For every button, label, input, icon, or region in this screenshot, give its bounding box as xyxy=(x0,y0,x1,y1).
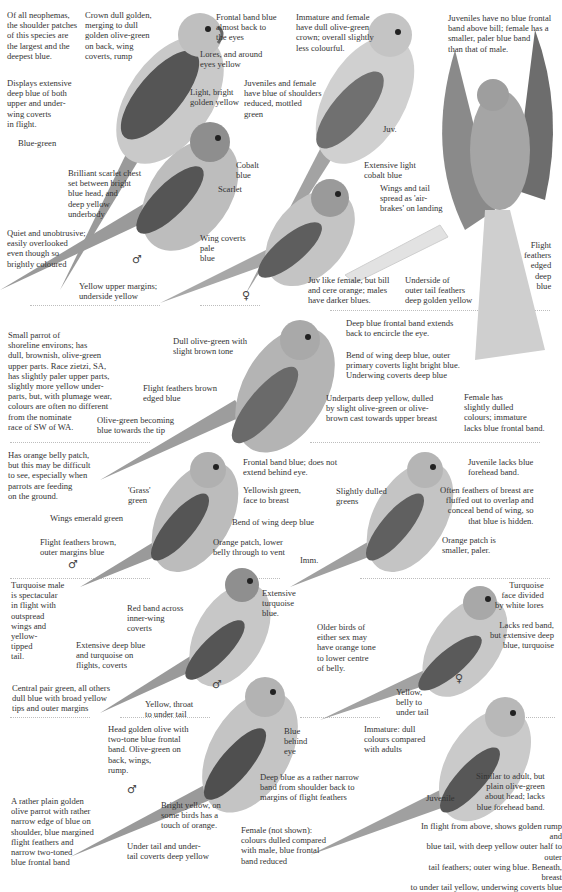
note-crown: Crown dull golden, merging to dull golde… xyxy=(85,10,152,61)
note-immature-dull: Immature: dull colours compared with adu… xyxy=(364,724,425,755)
note-yellow-throat: Yellow, throat to under tail xyxy=(145,699,193,719)
note-juvenile-bill: Juv like female, but bill and cere orang… xyxy=(308,275,389,306)
note-orange-patch: Orange patch, lower belly through to ven… xyxy=(213,537,285,557)
note-flight-display: Displays extensive deep blue of both upp… xyxy=(7,78,72,129)
note-bend-of-wing: Bend of wing deep blue, outer primary co… xyxy=(346,350,460,381)
note-orange-belly-intro: Has orange belly patch, but this may be … xyxy=(8,450,90,501)
note-wing-coverts: Wing coverts pale blue xyxy=(200,233,246,264)
section-separator xyxy=(30,305,160,306)
note-flight-brown: Flight feathers brown edged blue xyxy=(143,383,217,403)
note-dull-olive: Dull olive-green with slight brown tone xyxy=(173,336,247,356)
label-immature: Imm. xyxy=(300,555,318,565)
note-frontal-not-behind: Frontal band blue; does not extend behin… xyxy=(243,457,337,477)
section-separator xyxy=(310,442,540,443)
note-yellow-margins: Yellow upper margins; underside yellow xyxy=(79,281,157,301)
note-extensive-turquoise: Extensive turquoise blue. xyxy=(262,588,296,619)
note-intro: Of all neophemas, the shoulder patches o… xyxy=(7,10,77,61)
note-tail-blue-green: Blue-green xyxy=(18,138,56,148)
note-older-birds: Older birds of either sex may have orang… xyxy=(317,622,376,673)
note-breast-feathers: Often feathers of breast are fluffed out… xyxy=(440,485,534,526)
note-female-dulled: Female has slightly dulled colours; imma… xyxy=(464,392,545,433)
note-outer-tail-underside: Underside of outer tail feathers deep go… xyxy=(405,275,472,306)
note-yellowish-green-face: Yellowish green, face to breast xyxy=(243,485,301,505)
note-deep-blue-frontal: Deep blue frontal band extends back to e… xyxy=(346,318,453,338)
note-underparts: Underparts deep yellow, dulled by slight… xyxy=(326,393,437,424)
note-extensive-cobalt: Extensive light cobalt blue xyxy=(364,160,416,180)
note-flight-brown-blue: Flight feathers brown, outer margins blu… xyxy=(40,537,116,557)
note-tail-olive-blue: Olive-green becoming blue towards the ti… xyxy=(97,415,174,435)
note-belly-yellow: Light, bright golden yellow xyxy=(190,87,239,107)
parrot-illustration-landing xyxy=(435,30,560,364)
male-symbol: ♂ xyxy=(212,678,222,691)
note-bend-deep-blue: Bend of wing deep blue xyxy=(232,517,314,527)
note-orange-smaller: Orange patch is smaller, paler. xyxy=(442,535,496,555)
note-wings-emerald: Wings emerald green xyxy=(50,513,123,523)
note-turquoise-intro: Turquoise male is spectacular in flight … xyxy=(11,580,64,662)
note-juvenile-similar: Similar to adult, but plain olive-green … xyxy=(476,771,545,812)
note-immature-female: Immature and female have dull olive-gree… xyxy=(296,12,374,53)
note-juvenile-forehead: Juvenile lacks blue forehead band. xyxy=(468,457,533,477)
note-flight-feathers-edged: Flight feathers edged deep blue xyxy=(524,240,551,291)
note-juveniles-female-shoulders: Juveniles and female have blue of should… xyxy=(244,78,322,119)
note-scarlet-chest: Brilliant scarlet chest set between brig… xyxy=(68,168,141,219)
note-blue-behind-eye: Blue behind eye xyxy=(284,726,307,757)
note-deep-blue-band: Deep blue as a rather narrow band from s… xyxy=(260,772,359,803)
note-under-tail: Under tail and under- tail coverts deep … xyxy=(127,841,209,861)
note-elegant-intro: A rather plain golden olive parrot with … xyxy=(11,796,94,867)
note-red-band: Red band across inner-wing coverts xyxy=(127,603,183,634)
note-in-flight: In flight from above, shows golden rump … xyxy=(408,821,562,892)
female-symbol: ♀ xyxy=(455,672,463,685)
note-turquoise-face: Turquoise face divided by white lores xyxy=(495,580,544,611)
note-female-not-shown: Female (not shown): colours dulled compa… xyxy=(241,825,326,866)
note-slightly-dulled: Slightly dulled greens xyxy=(336,486,387,506)
male-symbol: ♂ xyxy=(68,558,78,571)
note-frontal-band: Frontal band blue almost back to the eye… xyxy=(216,12,277,43)
note-yellow-belly: Yellow, belly to under tail xyxy=(396,687,429,718)
note-grass-green: 'Grass' green xyxy=(128,485,151,505)
note-lacks-red-band: Lacks red band, but extensive deep blue,… xyxy=(490,620,554,651)
label-juvenile: Juvenile xyxy=(426,793,455,803)
note-cobalt-blue: Cobalt blue xyxy=(236,160,259,180)
note-air-brakes: Wings and tail spread as 'air- brakes' o… xyxy=(380,183,443,214)
male-symbol: ♂ xyxy=(132,253,142,266)
note-bright-yellow: Bright yellow, on some birds has a touch… xyxy=(161,800,221,831)
note-juveniles-frontal: Juveniles have no blue frontal band abov… xyxy=(448,13,551,54)
note-lores: Lores, and around eyes yellow xyxy=(200,49,262,69)
male-symbol: ♂ xyxy=(127,783,137,796)
note-central-pair: Central pair green, all others dull blue… xyxy=(12,683,110,714)
note-extensive-deep-blue: Extensive deep blue and turquoise on fli… xyxy=(76,640,145,671)
note-head-golden-olive: Head golden olive with two-tone blue fro… xyxy=(108,724,188,775)
female-symbol: ♀ xyxy=(242,289,250,302)
label-juvenile: Juv. xyxy=(383,124,397,134)
note-quiet: Quiet and unobtrusive; easily overlooked… xyxy=(7,228,86,269)
note-scarlet: Scarlet xyxy=(218,184,242,194)
